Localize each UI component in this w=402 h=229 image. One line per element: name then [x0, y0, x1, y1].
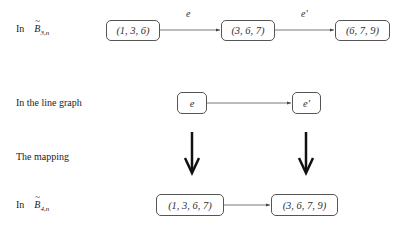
node-b3-136: (1, 3, 6)	[106, 20, 160, 41]
edge-label-e: e	[186, 8, 190, 19]
row-label-line-graph: In the line graph	[16, 97, 82, 108]
node-b4-3679: (3, 6, 7, 9)	[271, 194, 338, 216]
node-b4-1367: (1, 3, 6, 7)	[156, 194, 224, 216]
b-tilde-symbol: ~B4,n	[34, 199, 49, 213]
node-b3-367: (3, 6, 7)	[221, 20, 275, 41]
row-label-mapping: The mapping	[16, 151, 69, 162]
row-label-b3: In ~B3,n	[16, 23, 49, 37]
edge-label-e-prime: e'	[301, 8, 308, 19]
node-line-graph-e: e	[177, 92, 207, 114]
b-tilde-symbol: ~B3,n	[34, 23, 49, 37]
mapping-arrow-left	[185, 132, 199, 173]
mapping-arrow-right	[299, 132, 313, 173]
row-prefix: In	[16, 23, 24, 34]
row-prefix: In	[16, 199, 24, 210]
node-line-graph-e-prime: e'	[292, 92, 321, 114]
row-label-b4: In ~B4,n	[16, 199, 49, 213]
node-b3-679: (6, 7, 9)	[335, 20, 390, 41]
